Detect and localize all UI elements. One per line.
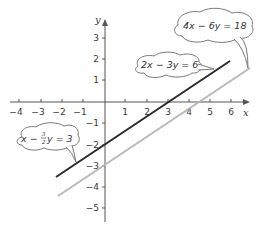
y-axis-arrow-icon [102,19,108,26]
x-tick-label: −3 [31,107,44,117]
x-tick-label: −4 [9,107,23,117]
x-tick-label: −1 [73,107,86,117]
x-tick-label: 1 [122,107,128,117]
y-tick-label: 2 [93,54,99,64]
x-tick-label: −2 [52,107,65,117]
fraction-numerator: 3 [42,131,46,137]
equation-4x-6y-18: 4x − 6y = 18 [183,20,246,31]
y-tick-label: 3 [93,33,99,43]
y-tick-label: −5 [86,203,99,213]
x-tick-label: 5 [207,107,213,117]
y-tick-label: 1 [93,75,99,85]
equation-suffix: y = 3 [46,133,73,144]
x-tick-label: 6 [228,107,234,117]
y-tick-label: −4 [86,182,100,192]
callout-2x-3y-6: 2x − 3y = 6 [136,52,214,77]
x-tick-labels: −4 −3 −2 −1 1 2 3 4 5 6 [9,107,234,117]
equation-2x-3y-6: 2x − 3y = 6 [141,59,198,70]
y-tick-label: −1 [86,118,99,128]
equation-prefix: x − [20,133,38,144]
y-tick-labels: 3 2 1 −1 −2 −3 −4 −5 [86,33,100,213]
fraction-denominator: 2 [42,139,46,145]
y-axis-label: y [94,14,101,25]
x-axis-label: x [243,107,249,118]
x-tick-label: 3 [165,107,171,117]
line-4x-6y-18 [58,68,250,196]
line-2x-3y-6 [56,61,230,177]
graph-canvas: x y −4 −3 −2 −1 1 2 3 4 5 6 [0,0,265,232]
x-axis-arrow-icon [243,99,250,105]
callout-x-3-2y-3: x − 3 2 y = 3 [17,123,79,162]
